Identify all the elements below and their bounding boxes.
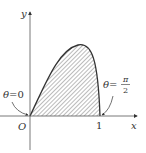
hatched-region	[30, 45, 100, 116]
pointer-arrow-end	[102, 96, 113, 115]
theta-start-annotation: θ=0	[3, 89, 28, 115]
y-axis-label: y	[20, 8, 27, 19]
svg-text:θ=: θ=	[103, 79, 117, 90]
x-axis-label: x	[131, 120, 137, 131]
pointer-arrow-start	[12, 102, 28, 115]
pi-numerator: π	[122, 75, 129, 84]
svg-text:θ=0: θ=0	[3, 89, 24, 100]
theta-end-annotation: θ= π 2	[102, 75, 130, 115]
origin-label: O	[18, 121, 26, 132]
parametric-curve-diagram: y x O 1 θ=0 θ= π 2	[0, 0, 146, 153]
denominator: 2	[123, 86, 128, 95]
x-tick-label: 1	[96, 120, 102, 131]
